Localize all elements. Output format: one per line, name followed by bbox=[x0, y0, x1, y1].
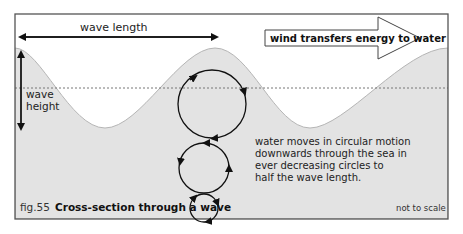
figure-title: Cross-section through a wave bbox=[55, 201, 231, 213]
motion-line-4: half the wave length. bbox=[255, 172, 361, 183]
motion-line-1: water moves in circular motion bbox=[255, 136, 411, 147]
figure-number: fig.55 bbox=[20, 201, 50, 213]
motion-line-3: ever decreasing circles to bbox=[255, 160, 384, 171]
motion-line-2: downwards through the sea in bbox=[255, 148, 407, 159]
orbit-large-arrow-bottom bbox=[212, 138, 218, 139]
wave-length-label: wave length bbox=[80, 21, 148, 34]
wave-surface bbox=[15, 48, 448, 219]
wave-height-label-line1: wave bbox=[26, 88, 54, 100]
wind-arrow-label: wind transfers energy to water bbox=[270, 33, 446, 44]
scale-note: not to scale bbox=[396, 203, 446, 213]
wave-diagram: wave length wave height wind transfers e… bbox=[0, 0, 463, 234]
wave-height-label-line2: height bbox=[26, 100, 59, 112]
water-body bbox=[15, 48, 448, 219]
wind-arrow: wind transfers energy to water bbox=[265, 17, 446, 59]
wave-length-indicator: wave length bbox=[20, 21, 217, 37]
